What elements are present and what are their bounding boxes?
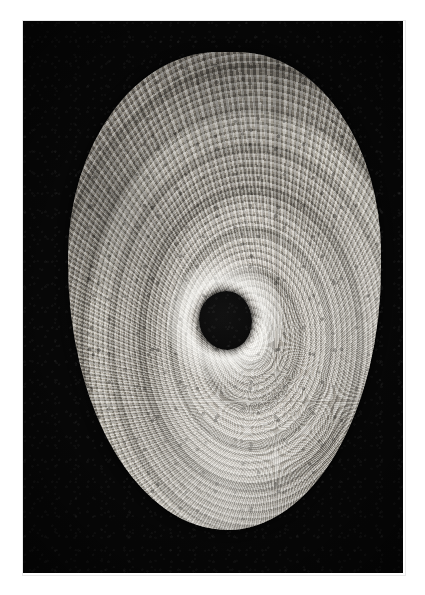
nucleus-core <box>199 291 252 350</box>
page-canvas: Black-and-white photomicrograph of a fis… <box>0 0 425 595</box>
photographic-plate: Black-and-white photomicrograph of a fis… <box>23 21 403 573</box>
plate-alt-text: Black-and-white photomicrograph of a fis… <box>23 21 24 22</box>
